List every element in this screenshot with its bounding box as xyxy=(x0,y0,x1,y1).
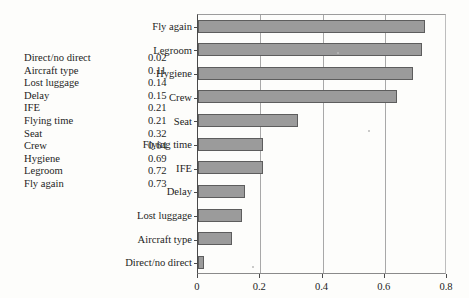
y-axis-tick xyxy=(194,27,198,28)
y-axis-tick xyxy=(194,192,198,193)
bar-row: Hygiene xyxy=(198,62,445,86)
bar-row: Seat xyxy=(198,110,445,134)
category-label: Delay xyxy=(2,180,192,204)
y-axis-tick xyxy=(194,216,198,217)
bar xyxy=(198,114,298,127)
bar-row: Flying time xyxy=(198,133,445,157)
bar xyxy=(198,209,242,222)
x-axis-tick xyxy=(259,274,260,278)
bar xyxy=(198,43,422,56)
category-label: Flying time xyxy=(2,133,192,157)
x-axis-tick xyxy=(384,274,385,278)
bar xyxy=(198,185,245,198)
category-label: Fly again xyxy=(2,15,192,39)
y-axis-tick xyxy=(194,74,198,75)
chart-figure: Direct/no direct0.02Aircraft type0.11Los… xyxy=(0,0,469,298)
bar-row: Lost luggage xyxy=(198,204,445,228)
bar-row: Crew xyxy=(198,86,445,110)
y-axis-tick xyxy=(194,98,198,99)
y-axis-tick xyxy=(194,240,198,241)
x-axis: 00.20.40.60.8 xyxy=(197,274,446,294)
x-axis-label: 0.8 xyxy=(439,281,452,292)
category-label: Direct/no direct xyxy=(2,251,192,275)
bar-row: Legroom xyxy=(198,39,445,63)
y-axis-tick xyxy=(194,50,198,51)
plot-area: Fly againLegroomHygieneCrewSeatFlying ti… xyxy=(197,14,446,274)
x-axis-label: 0 xyxy=(194,281,199,292)
category-label: Lost luggage xyxy=(2,204,192,228)
bar-row: Delay xyxy=(198,180,445,204)
bar xyxy=(198,161,263,174)
y-axis-tick xyxy=(194,145,198,146)
x-axis-tick xyxy=(322,274,323,278)
y-axis-tick xyxy=(194,169,198,170)
y-axis-tick xyxy=(194,263,198,264)
x-axis-label: 0.6 xyxy=(377,281,390,292)
category-label: Crew xyxy=(2,86,192,110)
bar xyxy=(198,232,232,245)
x-axis-label: 0.4 xyxy=(315,281,328,292)
category-label: Seat xyxy=(2,110,192,134)
speck-artifact xyxy=(252,266,254,268)
bar-row: Fly again xyxy=(198,15,445,39)
bar-row: Aircraft type xyxy=(198,228,445,252)
bar xyxy=(198,256,204,269)
bar-row: Direct/no direct xyxy=(198,251,445,275)
bar-row: IFE xyxy=(198,157,445,181)
speck-artifact xyxy=(368,130,370,132)
category-label: Hygiene xyxy=(2,62,192,86)
bar xyxy=(198,67,413,80)
x-axis-tick xyxy=(197,274,198,278)
y-axis-tick xyxy=(194,121,198,122)
bar xyxy=(198,90,397,103)
category-label: Aircraft type xyxy=(2,228,192,252)
category-label: IFE xyxy=(2,157,192,181)
x-axis-label: 0.2 xyxy=(253,281,266,292)
speck-artifact xyxy=(337,52,339,54)
category-label: Legroom xyxy=(2,39,192,63)
bar-chart: Fly againLegroomHygieneCrewSeatFlying ti… xyxy=(0,0,469,298)
bar xyxy=(198,20,425,33)
x-axis-tick xyxy=(446,274,447,278)
bar xyxy=(198,138,263,151)
